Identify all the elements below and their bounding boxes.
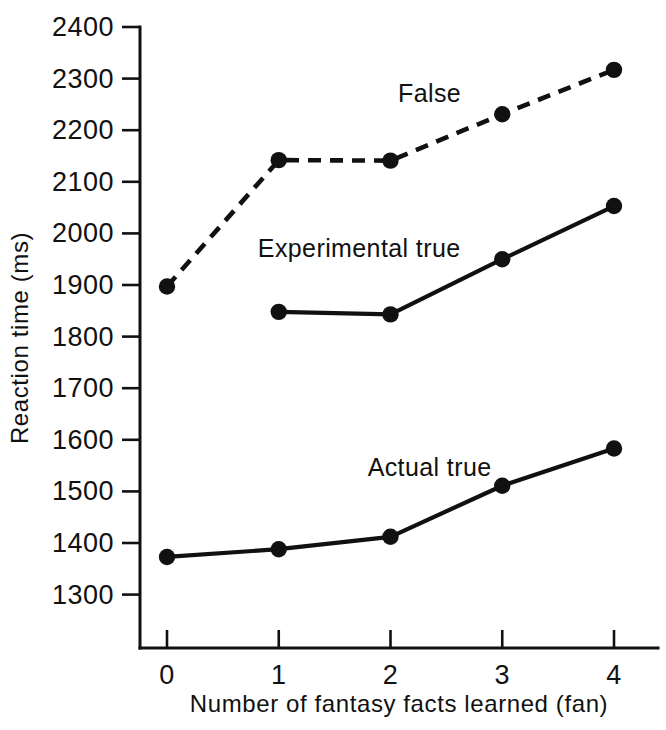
x-tick-label-3: 3 (494, 660, 510, 690)
data-point-marker (606, 62, 622, 78)
data-point-marker (271, 304, 287, 320)
y-tick-label-2200: 2200 (52, 115, 114, 145)
data-point-marker (159, 549, 175, 565)
data-point-marker (494, 251, 510, 267)
x-axis-title: Number of fantasy facts learned (fan) (190, 690, 608, 717)
x-tick-label-2: 2 (383, 660, 399, 690)
x-tick-label-0: 0 (159, 660, 175, 690)
reaction-time-line-chart: 1300140015001600170018001900200021002200… (0, 0, 666, 730)
series-label-actual-true: Actual true (368, 453, 492, 481)
y-tick-label-1700: 1700 (52, 373, 114, 403)
data-point-marker (382, 306, 398, 322)
y-tick-label-1900: 1900 (52, 270, 114, 300)
y-tick-label-2100: 2100 (52, 167, 114, 197)
data-point-marker (382, 529, 398, 545)
chart-series-group (159, 62, 622, 566)
x-tick-label-1: 1 (271, 660, 287, 690)
series-label-false: False (398, 79, 461, 107)
y-tick-label-1300: 1300 (52, 580, 114, 610)
y-tick-label-1500: 1500 (52, 476, 114, 506)
y-axis-ticks (122, 27, 140, 595)
y-tick-label-1800: 1800 (52, 322, 114, 352)
x-tick-label-4: 4 (606, 660, 622, 690)
series-label-experimental-true: Experimental true (258, 234, 461, 262)
data-point-marker (271, 152, 287, 168)
y-axis-title: Reaction time (ms) (6, 232, 33, 444)
x-axis-ticks (167, 630, 614, 648)
y-tick-label-2400: 2400 (52, 12, 114, 42)
y-axis-tick-labels: 1300140015001600170018001900200021002200… (52, 12, 114, 610)
data-point-marker (382, 152, 398, 168)
data-point-marker (494, 106, 510, 122)
data-point-marker (606, 440, 622, 456)
y-tick-label-2000: 2000 (52, 218, 114, 248)
data-point-marker (271, 541, 287, 557)
data-point-marker (159, 278, 175, 294)
data-point-marker (494, 478, 510, 494)
y-tick-label-2300: 2300 (52, 64, 114, 94)
x-axis-tick-labels: 01234 (159, 660, 622, 690)
data-point-marker (606, 198, 622, 214)
y-tick-label-1600: 1600 (52, 425, 114, 455)
y-tick-label-1400: 1400 (52, 528, 114, 558)
chart-canvas: 1300140015001600170018001900200021002200… (0, 0, 666, 730)
